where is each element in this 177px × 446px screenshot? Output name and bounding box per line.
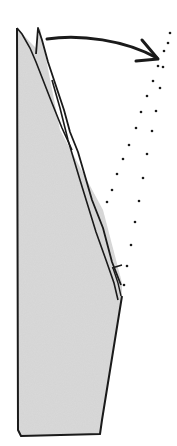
folded-paper [17, 28, 122, 436]
fold-arrow [47, 37, 158, 61]
origami-diagram [0, 0, 177, 446]
arrow-shaft [47, 37, 157, 58]
fold-guide-dotted-lines [106, 32, 172, 287]
paper-texture [17, 28, 122, 436]
